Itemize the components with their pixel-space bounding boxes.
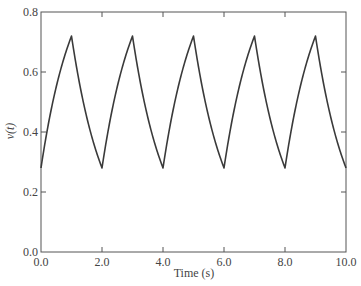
y-tick-label: 0.6 bbox=[23, 65, 38, 79]
x-axis-label: Time (s) bbox=[174, 266, 215, 280]
y-axis-tick-labels: 0.00.20.40.60.8 bbox=[23, 5, 38, 259]
x-tick-label: 4.0 bbox=[156, 255, 171, 269]
y-tick-label: 0.8 bbox=[23, 5, 38, 19]
y-tick-label: 0.0 bbox=[23, 245, 38, 259]
y-axis-label: v(t) bbox=[3, 123, 17, 140]
axis-ticks bbox=[41, 12, 346, 252]
y-tick-label: 0.4 bbox=[23, 125, 38, 139]
y-tick-label: 0.2 bbox=[23, 185, 38, 199]
series-line-v-t bbox=[41, 36, 346, 168]
x-tick-label: 8.0 bbox=[278, 255, 293, 269]
x-tick-label: 2.0 bbox=[95, 255, 110, 269]
plot-frame bbox=[41, 12, 346, 252]
x-tick-label: 10.0 bbox=[336, 255, 357, 269]
x-tick-label: 6.0 bbox=[217, 255, 232, 269]
chart: 0.02.04.06.08.010.0 0.00.20.40.60.8 Time… bbox=[0, 0, 361, 286]
